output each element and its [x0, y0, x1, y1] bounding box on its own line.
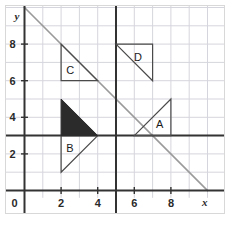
y-axis-label: y: [15, 11, 20, 22]
shape-label-d: D: [134, 52, 142, 63]
shape-label-c: C: [66, 65, 74, 76]
y-tick-label: 2: [10, 149, 16, 160]
plot-area: [0, 0, 230, 229]
x-axis-label: x: [202, 197, 208, 208]
origin-label: 0: [12, 198, 18, 209]
x-tick-label: 8: [168, 198, 174, 209]
y-tick-label: 4: [10, 112, 16, 123]
x-tick-label: 6: [131, 198, 137, 209]
coordinate-grid-figure: ABCD246802468yx: [0, 0, 230, 229]
y-tick-label: 8: [10, 39, 16, 50]
x-tick-label: 4: [95, 198, 101, 209]
shape-label-a: A: [156, 119, 163, 130]
shape-label-b: B: [66, 143, 73, 154]
y-tick-label: 6: [10, 76, 16, 87]
x-tick-label: 2: [58, 198, 64, 209]
